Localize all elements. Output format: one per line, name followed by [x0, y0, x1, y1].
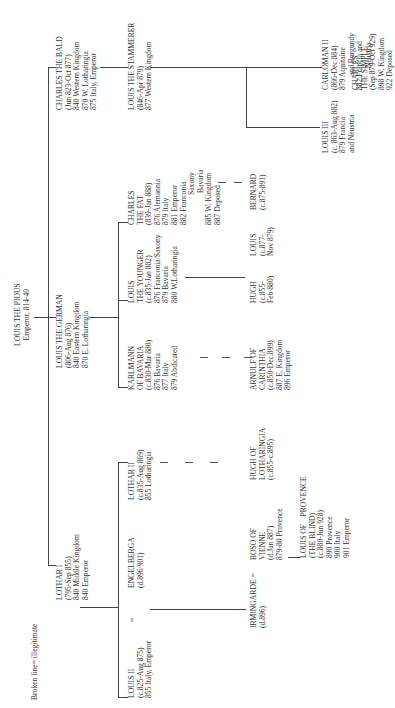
connector [100, 67, 128, 68]
node-detail: 887 Deposed [214, 169, 223, 225]
node-engelberga: ENGELBERGA (d.896/901) [128, 537, 145, 588]
node-detail: 922 Deposed [386, 33, 395, 90]
node-arnulf-of-carinthia: ARNULF OF CARINTHIA (c.850-Dec.899) 887 … [250, 340, 293, 390]
node-detail: 879-80 Provence [276, 508, 285, 560]
node-louis-iii: LOUIS III (c. 863-Aug 882) 879 Francia a… [322, 100, 356, 153]
node-detail: Nov 879) [267, 227, 276, 256]
node-karlmann: KARLMANN OF BAVARIA (c.830-Mar 880) 876 … [128, 340, 180, 390]
node-louis-ii: LOUIS II (c.825-Aug 875) 855 Italy, Empe… [128, 641, 154, 698]
connector [80, 607, 118, 608]
connector [34, 317, 48, 318]
node-lothar-ii: LOTHAR II (c.835-Aug 869) 855 Lotharingi… [128, 449, 154, 500]
node-detail: 896 Emperor [284, 340, 293, 390]
genealogy-figure: Broken line= illegitimate LOUIS THE PIOU… [0, 0, 395, 708]
illegitimate-connector [185, 462, 193, 463]
node-charles-the-simple-col: CHARLES THE SIMPLE (Sep 879-Oct 929) 898… [352, 33, 395, 90]
node-bernard: BERNARD (c.875-891) [250, 174, 267, 210]
illegitimate-connector [210, 462, 218, 463]
connector [90, 317, 118, 318]
node-detail: 855 Italy, Emperor [145, 641, 154, 698]
node-detail: (c.855-c.895) [267, 428, 276, 480]
node-hugh: HUGH (c.855- Feb 880) [250, 276, 276, 303]
node-detail: 879 Abdicated [171, 340, 180, 390]
node-louis-the-german: LOUIS THE GERMAN (806-Aug 876) 840 Easte… [56, 294, 90, 368]
family-tree: Broken line= illegitimate LOUIS THE PIOU… [0, 0, 395, 708]
connector [118, 463, 119, 698]
node-louis-the-pious: LOUIS THE PIOUS Emperor, 814-40 [14, 283, 31, 346]
node-louis-the-younger: LOUIS THE YOUNGER (c.835-Jan 882) 876 Fr… [128, 234, 180, 303]
node-detail: 875 Italy, Emperor [90, 36, 99, 110]
node-irmingarde: IRMINGARDE = (d.896) [250, 573, 267, 628]
node-boso-of-vienne: BOSO OF VIENNE (d.Jan 887) 879-80 Proven… [250, 508, 284, 560]
node-detail: and Neustria [348, 100, 357, 153]
node-detail: (d.896/901) [137, 537, 146, 588]
node-detail: 880 W.Lotharingia [171, 234, 180, 303]
connector [246, 68, 247, 128]
connector [118, 223, 119, 388]
connector [246, 127, 320, 128]
legend-text: Broken line= illegitimate [30, 624, 39, 700]
node-detail: Emperor, 814-40 [23, 283, 32, 346]
node-detail: 840 Emperor [82, 534, 91, 600]
node-detail: (d.896) [259, 573, 268, 628]
node-louis-of-provence: LOUIS OF PROVENCE (THE BLIND) (c.880-Jun… [300, 476, 352, 558]
node-charles-the-fat: CHARLES THE FAT (839-Jan 888) 876 Aleman… [128, 169, 223, 225]
node-detail: 855 Lotharingia [145, 449, 154, 500]
marriage-equals: = [128, 618, 137, 622]
connector [150, 609, 246, 610]
illegitimate-connector [218, 182, 226, 183]
illegitimate-connector [234, 182, 242, 183]
illegitimate-connector [222, 357, 230, 358]
connector [150, 67, 322, 68]
node-lothar-i: LOTHAR I (795-Sep 855) 840 Middle Kingdo… [56, 534, 90, 600]
node-detail: 901 Emperor [343, 476, 352, 558]
node-detail: 870 E. Lotharingia [82, 294, 91, 368]
node-hugh-of-lotharingia: HUGH OF LOTHARINGIA (c.855-c.895) [250, 428, 276, 480]
illegitimate-connector [160, 462, 168, 463]
node-detail: (c.875-891) [259, 174, 268, 210]
node-louis-c877: LOUIS (c.877- Nov 879) [250, 227, 276, 256]
node-charles-the-bald: CHARLES THE BALD (Jun 823-Oct 877) 840 W… [56, 36, 99, 110]
connector [185, 277, 245, 278]
node-detail: Feb 880) [267, 276, 276, 303]
illegitimate-connector [200, 357, 208, 358]
